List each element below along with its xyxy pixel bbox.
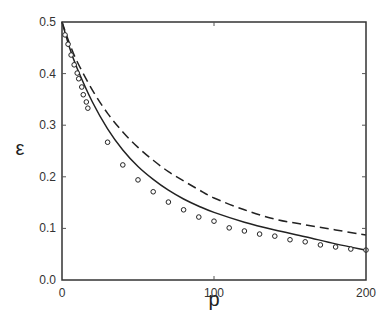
y-tick-label: 0.5 [39,15,56,29]
data-point-marker [105,140,110,145]
solid-curve [62,22,366,250]
data-point-marker [166,200,171,205]
data-point-marker [212,219,217,224]
data-point-marker [63,33,68,38]
data-point-marker [333,245,338,250]
data-point-marker [136,178,141,183]
plot-frame [62,22,366,280]
data-point-marker [75,71,80,76]
y-tick-label: 0.1 [39,221,56,235]
data-point-marker [273,234,278,239]
data-point-marker [227,226,232,231]
x-axis-label: p [208,288,219,310]
x-tick-label: 200 [356,286,376,300]
data-point-marker [151,189,156,194]
data-point-marker [81,92,86,97]
data-point-marker [303,240,308,245]
data-point-marker [121,163,126,168]
data-point-marker [72,63,77,68]
data-point-marker [76,76,81,81]
y-axis-label: ε [16,137,25,159]
data-point-marker [242,229,247,234]
data-point-marker [197,215,202,220]
data-point-marker [66,42,71,47]
y-tick-label: 0.3 [39,118,56,132]
data-point-marker [318,243,323,248]
chart: 0.00.10.20.30.40.5 0100200 p ε [0,0,390,328]
plot-series [62,22,368,252]
x-axis-ticks: 0100200 [59,22,377,300]
data-point-marker [79,85,84,90]
data-point-marker [257,232,262,237]
y-tick-label: 0.4 [39,67,56,81]
y-axis-ticks: 0.00.10.20.30.40.5 [39,15,366,287]
data-point-marker [84,100,89,105]
data-point-marker [349,247,354,252]
data-point-marker [181,208,186,213]
x-tick-label: 0 [59,286,66,300]
y-tick-label: 0.2 [39,170,56,184]
data-point-marker [69,53,74,58]
y-tick-label: 0.0 [39,273,56,287]
data-point-marker [86,106,91,111]
data-point-marker [288,237,293,242]
